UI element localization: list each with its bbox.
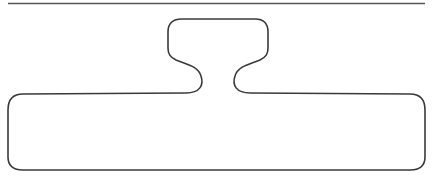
- diagram-svg: [0, 0, 433, 185]
- diagram-canvas: [0, 0, 433, 185]
- shape-outline: [8, 19, 425, 170]
